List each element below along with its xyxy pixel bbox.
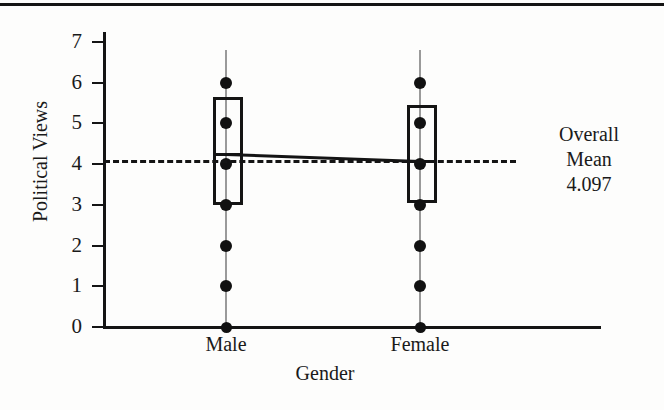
y-axis-tick-mark — [92, 163, 104, 165]
y-axis-tick-label: 1 — [52, 275, 82, 296]
data-point-male-2 — [220, 240, 232, 252]
y-axis-tick-label: 6 — [52, 72, 82, 93]
y-axis-tick-mark — [92, 204, 104, 206]
overall-mean-reference-line — [104, 160, 516, 163]
data-point-female-6 — [414, 77, 426, 89]
annotation-line-1: Overall — [524, 122, 654, 147]
data-point-male-6 — [220, 77, 232, 89]
annotation-line-3: 4.097 — [524, 172, 654, 197]
y-axis-tick-mark — [92, 41, 104, 43]
x-axis-label-male: Male — [166, 333, 286, 356]
data-point-female-1 — [414, 280, 426, 292]
y-axis-tick-mark — [92, 326, 104, 328]
y-axis-tick-label: 5 — [52, 112, 82, 133]
figure-top-rule — [0, 3, 664, 6]
data-point-male-3 — [220, 199, 232, 211]
y-axis-tick-mark — [92, 122, 104, 124]
group-box-male — [213, 97, 243, 205]
x-axis-line — [103, 326, 601, 329]
y-axis-tick-label: 7 — [52, 31, 82, 52]
y-axis-title: Political Views — [29, 67, 52, 257]
x-axis-title: Gender — [245, 362, 405, 385]
y-axis-tick-label: 2 — [52, 235, 82, 256]
annotation-line-2: Mean — [524, 147, 654, 172]
data-point-female-2 — [414, 240, 426, 252]
y-axis-tick-label: 0 — [52, 316, 82, 337]
y-axis-tick-mark — [92, 82, 104, 84]
y-axis-tick-label: 4 — [52, 153, 82, 174]
data-point-female-0 — [415, 322, 426, 333]
y-axis-tick-label: 3 — [52, 194, 82, 215]
data-point-male-0 — [221, 322, 232, 333]
overall-mean-annotation: Overall Mean 4.097 — [524, 122, 654, 197]
data-point-male-1 — [220, 280, 232, 292]
figure-dot-plot-political-views-by-gender: 76543210 Political Views Gender MaleFema… — [0, 0, 664, 410]
y-axis-tick-mark — [92, 245, 104, 247]
data-point-female-3 — [414, 199, 426, 211]
x-axis-label-female: Female — [360, 333, 480, 356]
y-axis-tick-mark — [92, 285, 104, 287]
